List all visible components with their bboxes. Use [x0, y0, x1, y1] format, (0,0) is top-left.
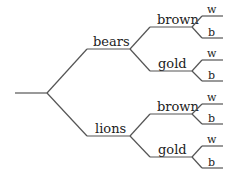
edge-root-bears: [47, 49, 87, 93]
leaf-lions-brown-w: w: [207, 91, 217, 104]
leaf-bears-gold-w: w: [207, 47, 217, 60]
leaf-bears-gold-b: b: [208, 69, 215, 82]
leaf-bears-brown-w: w: [207, 3, 217, 16]
leaf-lions-brown-b: b: [208, 112, 215, 125]
label-bears: bears: [93, 34, 130, 49]
node-bears-brown: brown w b: [150, 3, 223, 39]
tree-diagram: bears brown w b gold w b lions brown: [0, 0, 235, 180]
label-bears-brown: brown: [157, 12, 199, 27]
leaf-bears-brown-b: b: [208, 26, 215, 39]
node-lions-gold: gold w b: [150, 133, 223, 169]
edge-root-lions: [47, 93, 87, 136]
label-lions-brown: brown: [157, 99, 199, 114]
leaf-lions-gold-w: w: [207, 133, 217, 146]
label-bears-gold: gold: [158, 56, 187, 71]
node-lions: lions: [87, 114, 150, 157]
node-bears-gold: gold w b: [150, 47, 223, 82]
node-lions-brown: brown w b: [150, 91, 223, 125]
label-lions-gold: gold: [158, 142, 187, 157]
node-bears: bears: [87, 27, 150, 71]
leaf-lions-gold-b: b: [208, 156, 215, 169]
label-lions: lions: [95, 121, 126, 136]
